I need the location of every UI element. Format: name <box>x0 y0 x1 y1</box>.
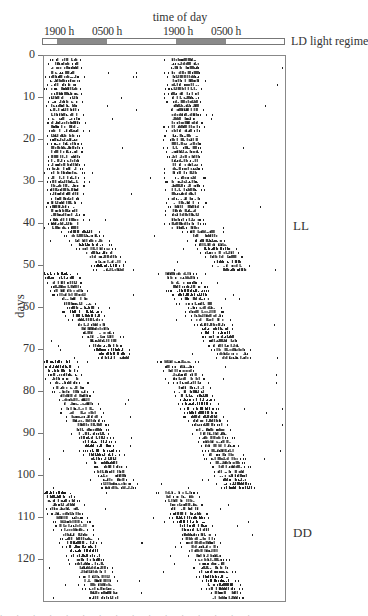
y-tick <box>38 391 43 392</box>
time-tick-label: 0500 h <box>92 25 122 37</box>
dark-period-segment <box>57 39 107 44</box>
y-tick <box>38 55 43 56</box>
y-tick <box>38 307 43 308</box>
time-tick-label: 1900 h <box>44 25 74 37</box>
y-tick-label: 30 <box>5 173 35 188</box>
actogram-activity-raster <box>44 56 285 601</box>
regime-label-ll: LL <box>293 218 309 234</box>
actogram-plot-area <box>43 55 286 602</box>
y-tick-label: 100 <box>5 467 35 482</box>
y-tick-label: 90 <box>5 425 35 440</box>
y-tick <box>38 265 43 266</box>
y-tick-label: 50 <box>5 257 35 272</box>
y-tick <box>38 517 43 518</box>
dark-period-segment <box>176 39 226 44</box>
ld-light-regime-bar <box>42 38 285 45</box>
y-tick <box>38 97 43 98</box>
regime-label-dd: DD <box>293 525 312 541</box>
y-tick-label: 0 <box>5 47 35 62</box>
y-tick-label: 10 <box>5 89 35 104</box>
y-tick <box>38 181 43 182</box>
y-tick-label: 110 <box>5 509 35 524</box>
y-tick-label: 20 <box>5 131 35 146</box>
x-axis-title: time of day <box>130 10 230 25</box>
time-tick-label: 1900 h <box>163 25 193 37</box>
y-tick <box>38 559 43 560</box>
y-tick <box>38 349 43 350</box>
y-tick <box>38 139 43 140</box>
ld-regime-label: LD light regime <box>291 34 368 49</box>
y-tick-label: 40 <box>5 215 35 230</box>
y-tick-label: 120 <box>5 551 35 566</box>
y-tick <box>38 223 43 224</box>
y-axis-title: days <box>12 294 28 318</box>
y-tick <box>38 433 43 434</box>
caption-fragment: . . . . . . . . . . . . . . . . <box>0 608 363 616</box>
y-tick-label: 70 <box>5 341 35 356</box>
y-tick <box>38 475 43 476</box>
time-tick-label: 0500 h <box>211 25 241 37</box>
y-tick-label: 80 <box>5 383 35 398</box>
